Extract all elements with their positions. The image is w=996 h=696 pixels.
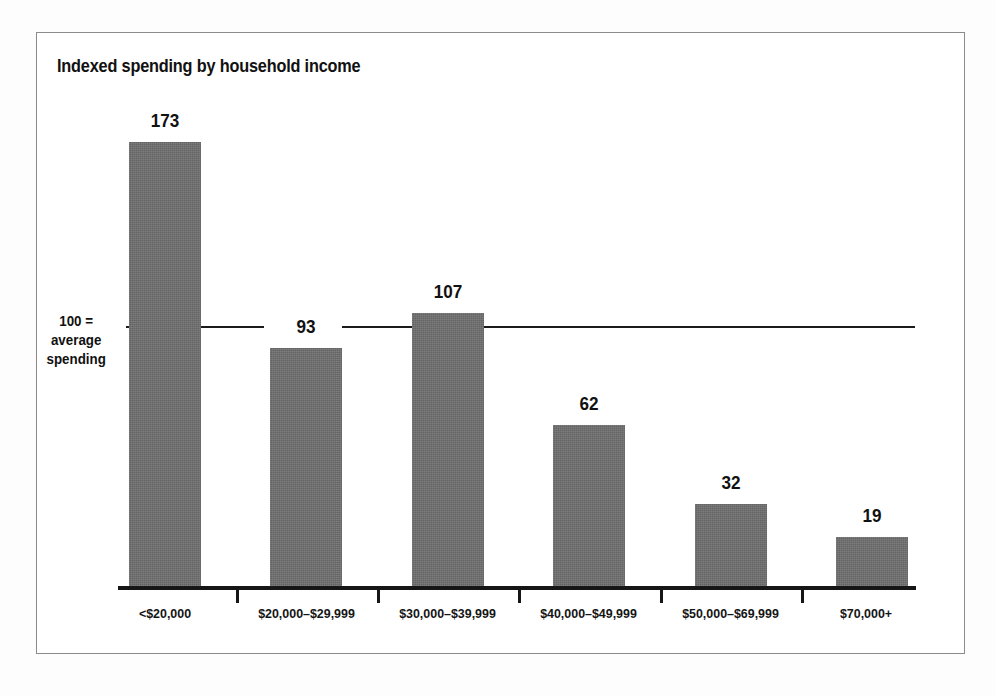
chart-plot-area: Indexed spending by household income 100… [0, 0, 996, 696]
category-label-0: <$20,000 [110, 606, 220, 621]
x-axis-tick [518, 590, 521, 603]
x-axis-tick [660, 590, 663, 603]
x-axis-tick [377, 590, 380, 603]
reference-line-label-line-1: 100 = [28, 312, 124, 331]
category-label-5: $70,000+ [806, 606, 926, 621]
bar-4 [695, 504, 767, 588]
bar-value-4: 32 [699, 472, 764, 494]
reference-line-segment [483, 326, 915, 328]
reference-line-label-line-3: spending [28, 350, 124, 369]
bar-value-2: 107 [416, 281, 481, 303]
category-label-3: $40,000–$49,999 [524, 606, 654, 621]
reference-line-label: 100 = average spending [28, 312, 124, 369]
bar-2 [412, 313, 484, 588]
reference-line-label-line-2: average [28, 331, 124, 350]
bar-3 [553, 425, 625, 588]
x-axis-tick [236, 590, 239, 603]
bar-1 [270, 348, 342, 588]
category-label-2: $30,000–$39,999 [383, 606, 513, 621]
category-label-1: $20,000–$29,999 [242, 606, 372, 621]
bar-value-5: 19 [840, 505, 905, 527]
bar-5 [836, 537, 908, 588]
chart-figure: Indexed spending by household income 100… [0, 0, 996, 696]
chart-title: Indexed spending by household income [57, 56, 360, 77]
x-axis-tick [801, 590, 804, 603]
bar-value-1: 93 [274, 316, 339, 338]
bar-value-0: 173 [133, 110, 198, 132]
bar-value-3: 62 [557, 393, 622, 415]
category-label-4: $50,000–$69,999 [666, 606, 796, 621]
bar-0 [129, 142, 201, 588]
reference-line-segment [342, 326, 412, 328]
reference-line-segment [202, 326, 264, 328]
